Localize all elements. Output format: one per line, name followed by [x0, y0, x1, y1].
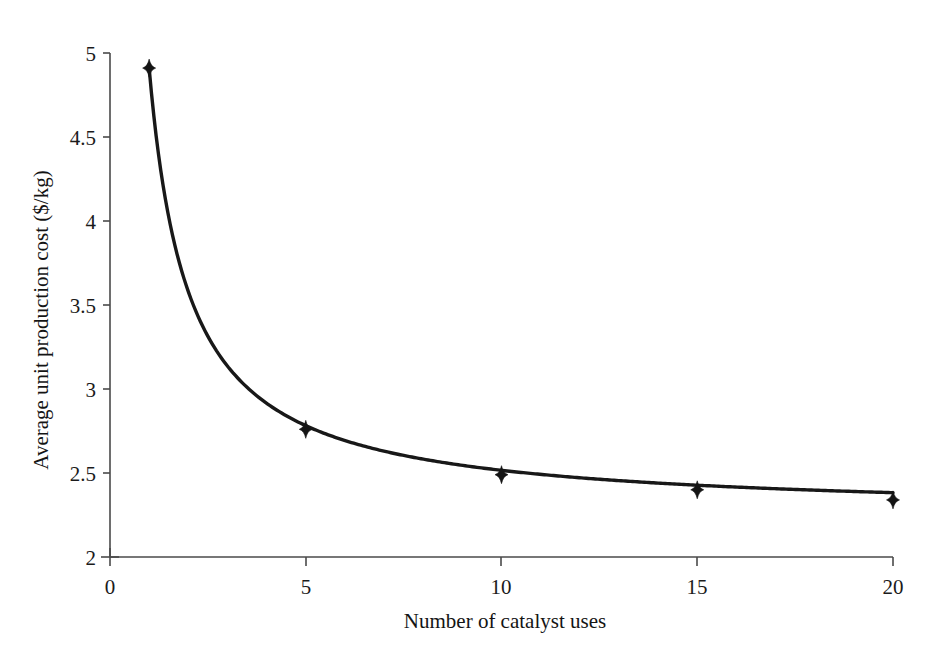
y-tick-label-2-5: 2.5 [70, 462, 96, 486]
y-axis-title: Average unit production cost ($/kg) [29, 170, 53, 469]
y-tick-label-3: 3 [86, 378, 97, 402]
data-point-marker [143, 59, 156, 77]
y-tick-label-4-5: 4.5 [70, 126, 96, 150]
x-tick-label-20: 20 [883, 575, 904, 599]
y-tick-label-2: 2 [86, 546, 97, 570]
line-chart: 5 4.5 4 3.5 3 2.5 2 0 5 10 15 20 Number … [0, 0, 940, 660]
data-point-markers [143, 59, 900, 509]
y-tick-label-5: 5 [86, 42, 97, 66]
y-tick-label-3-5: 3.5 [70, 294, 96, 318]
chart-page: 5 4.5 4 3.5 3 2.5 2 0 5 10 15 20 Number … [0, 0, 940, 660]
x-tick-label-15: 15 [687, 575, 708, 599]
x-tick-label-5: 5 [301, 575, 312, 599]
x-tick-label-10: 10 [491, 575, 512, 599]
y-tick-label-4: 4 [86, 210, 97, 234]
x-tick-label-0: 0 [105, 575, 116, 599]
x-axis-title: Number of catalyst uses [404, 609, 606, 633]
series-line-average-unit-cost [149, 68, 893, 493]
